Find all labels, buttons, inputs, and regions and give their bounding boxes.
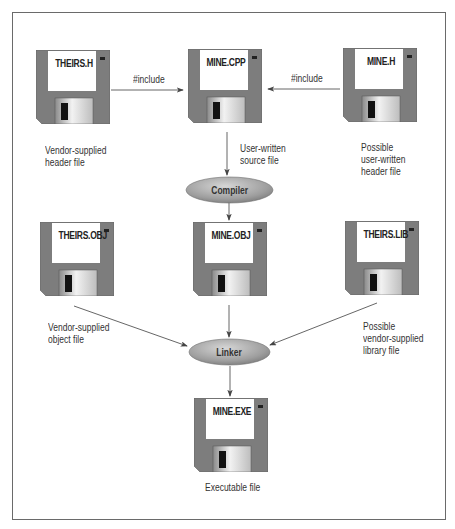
edge-label-include-right: #include <box>291 73 323 84</box>
file-name: MINE.OBJ <box>211 230 250 241</box>
file-name: THEIRS.H <box>54 58 93 69</box>
caption-line: source file <box>240 155 286 167</box>
caption-theirs-obj: Vendor-supplied object file <box>48 322 109 346</box>
edge-label-include-left: #include <box>133 74 165 85</box>
build-process-diagram: #include #include THEIRS.H Vendor-suppli… <box>0 0 455 529</box>
file-mine-h: MINE.H <box>343 48 417 122</box>
caption-mine-exe: Executable file <box>205 482 260 494</box>
caption-line: header file <box>361 166 405 178</box>
caption-mine-cpp: User-written source file <box>240 143 286 167</box>
file-name: MINE.EXE <box>212 406 251 417</box>
file-theirs-h: THEIRS.H <box>36 50 110 124</box>
caption-theirs-h: Vendor-supplied header file <box>45 145 106 169</box>
caption-line: Possible <box>363 321 423 333</box>
file-name: THEIRS.OBJ <box>58 230 97 241</box>
process-label: Linker <box>217 347 243 358</box>
caption-theirs-lib: Possible vendor-supplied library file <box>363 321 423 357</box>
caption-line: header file <box>45 157 106 169</box>
caption-line: user-written <box>361 154 405 166</box>
file-name: MINE.H <box>361 56 400 67</box>
file-mine-cpp: MINE.CPP <box>188 49 262 123</box>
caption-line: Vendor-supplied <box>45 145 106 157</box>
caption-line: object file <box>48 334 109 346</box>
caption-line: vendor-supplied <box>363 333 423 345</box>
file-mine-exe: MINE.EXE <box>194 398 268 472</box>
file-mine-obj: MINE.OBJ <box>193 222 267 296</box>
process-compiler: Compiler <box>185 176 274 204</box>
caption-line: Possible <box>361 142 405 154</box>
file-theirs-lib: THEIRS.LIB <box>345 221 419 295</box>
caption-line: Executable file <box>205 482 260 494</box>
caption-mine-h: Possible user-written header file <box>361 142 405 178</box>
arrow-theirs-lib-to-linker <box>270 303 377 345</box>
file-name: THEIRS.LIB <box>363 229 402 240</box>
file-name: MINE.CPP <box>206 57 245 68</box>
process-label: Compiler <box>211 185 248 196</box>
caption-line: library file <box>363 345 423 357</box>
file-theirs-obj: THEIRS.OBJ <box>40 222 114 296</box>
caption-line: Vendor-supplied <box>48 322 109 334</box>
process-linker: Linker <box>188 338 271 366</box>
caption-line: User-written <box>240 143 286 155</box>
